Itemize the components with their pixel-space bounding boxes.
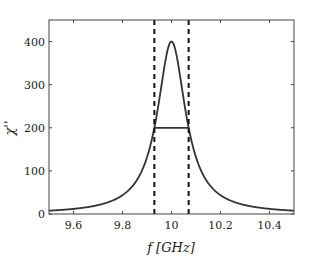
x-axis-ticks: 9.69.81010.210.4: [65, 20, 282, 232]
y-tick-label: 0: [38, 208, 45, 221]
x-tick-label: 10: [165, 219, 179, 232]
x-tick-label: 10.4: [257, 219, 282, 232]
axes-frame: [49, 20, 294, 214]
chart: 9.69.81010.210.4 0100200300400 f [GHz] χ…: [0, 0, 309, 261]
lorentzian-curve: [49, 42, 294, 211]
y-tick-label: 200: [24, 122, 45, 135]
x-axis-label: f [GHz]: [146, 240, 196, 255]
x-tick-label: 10.2: [208, 219, 233, 232]
y-tick-label: 100: [24, 165, 45, 178]
y-tick-label: 400: [24, 36, 45, 49]
y-tick-label: 300: [24, 79, 45, 92]
plot-area: [49, 20, 294, 214]
y-axis-label: χ'': [2, 120, 17, 136]
x-tick-label: 9.8: [114, 219, 132, 232]
x-tick-label: 9.6: [65, 219, 83, 232]
